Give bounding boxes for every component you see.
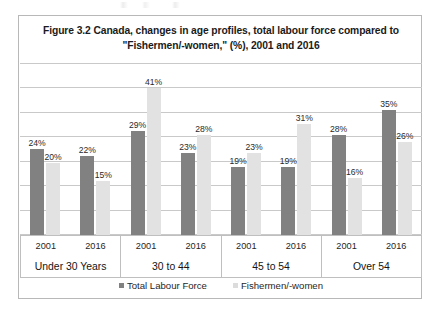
bar-pair-2016: 23%28%	[181, 63, 211, 235]
bar-wrapper: 26%	[398, 63, 412, 235]
bar-value-label: 20%	[45, 152, 62, 162]
axis-age-group-label: 45 to 54	[222, 257, 321, 278]
bar-fishermen-women[interactable]: 26%	[398, 142, 412, 235]
bar-value-label: 15%	[95, 170, 112, 180]
bar-value-label: 41%	[145, 77, 162, 87]
bar-value-label: 23%	[246, 142, 263, 152]
axis-year-row: 20012016	[21, 236, 120, 257]
bar-pair-2001: 24%20%	[30, 63, 60, 235]
scan-noise-artifact	[120, 2, 230, 8]
bar-total-labour-force[interactable]: 19%	[281, 167, 295, 235]
bar-pair-2001: 19%23%	[231, 63, 261, 235]
bar-wrapper: 19%	[281, 63, 295, 235]
bar-fishermen-women[interactable]: 23%	[247, 153, 261, 235]
axis-age-group-label: 30 to 44	[121, 257, 220, 278]
axis-group-column: 2001201630 to 44	[121, 236, 221, 277]
bar-group: 24%20%22%15%	[20, 63, 121, 235]
bar-total-labour-force[interactable]: 19%	[231, 167, 245, 235]
axis-year-row: 20012016	[322, 236, 421, 257]
axis-year-label: 2001	[222, 241, 272, 251]
axis-group-column: 2001201645 to 54	[222, 236, 322, 277]
bar-value-label: 28%	[330, 124, 347, 134]
bar-wrapper: 24%	[30, 63, 44, 235]
bar-value-label: 19%	[230, 156, 247, 166]
bar-wrapper: 15%	[96, 63, 110, 235]
legend-label: Total Labour Force	[127, 280, 207, 291]
figure-frame: Figure 3.2 Canada, changes in age profil…	[18, 15, 422, 299]
bar-groups-container: 24%20%22%15%29%41%23%28%19%23%19%31%28%1…	[20, 63, 422, 235]
bar-total-labour-force[interactable]: 35%	[382, 110, 396, 235]
bar-fishermen-women[interactable]: 20%	[46, 163, 60, 235]
axis-year-label: 2016	[171, 241, 221, 251]
bar-fishermen-women[interactable]: 41%	[147, 88, 161, 235]
bar-fishermen-women[interactable]: 28%	[197, 135, 211, 235]
bar-wrapper: 23%	[247, 63, 261, 235]
bar-wrapper: 22%	[80, 63, 94, 235]
bar-wrapper: 41%	[147, 63, 161, 235]
bar-value-label: 23%	[179, 142, 196, 152]
axis-group-column: 20012016Over 54	[322, 236, 422, 277]
bar-total-labour-force[interactable]: 24%	[30, 149, 44, 235]
bar-wrapper: 29%	[131, 63, 145, 235]
x-axis-table: 20012016Under 30 Years2001201630 to 4420…	[20, 235, 422, 278]
bar-wrapper: 28%	[197, 63, 211, 235]
bar-pair-2016: 35%26%	[382, 63, 412, 235]
legend-swatch-icon	[119, 283, 124, 288]
bar-value-label: 16%	[346, 167, 363, 177]
bar-pair-2016: 22%15%	[80, 63, 110, 235]
bar-pair-2016: 19%31%	[281, 63, 311, 235]
bar-group: 28%16%35%26%	[322, 63, 423, 235]
axis-year-label: 2016	[371, 241, 421, 251]
axis-age-group-label: Over 54	[322, 257, 421, 278]
bar-pair-2001: 28%16%	[332, 63, 362, 235]
legend-item[interactable]: Fishermen/-women	[233, 280, 323, 291]
bar-value-label: 31%	[296, 113, 313, 123]
bar-value-label: 24%	[29, 138, 46, 148]
bar-group: 19%23%19%31%	[221, 63, 322, 235]
bar-value-label: 22%	[79, 145, 96, 155]
chart-title-line-2: "Fishermen/-women," (%), 2001 and 2016	[29, 38, 413, 53]
plot-area: 24%20%22%15%29%41%23%28%19%23%19%31%28%1…	[20, 63, 422, 235]
bar-fishermen-women[interactable]: 31%	[297, 124, 311, 235]
chart-legend: Total Labour ForceFishermen/-women	[19, 280, 423, 291]
bar-wrapper: 23%	[181, 63, 195, 235]
bar-value-label: 35%	[380, 99, 397, 109]
axis-age-group-label: Under 30 Years	[21, 257, 120, 278]
bar-group: 29%41%23%28%	[121, 63, 222, 235]
axis-year-row: 20012016	[121, 236, 220, 257]
bar-total-labour-force[interactable]: 23%	[181, 153, 195, 235]
bar-total-labour-force[interactable]: 22%	[80, 156, 94, 235]
bar-total-labour-force[interactable]: 29%	[131, 131, 145, 235]
axis-year-label: 2016	[271, 241, 321, 251]
bar-value-label: 19%	[280, 156, 297, 166]
bar-wrapper: 31%	[297, 63, 311, 235]
axis-year-label: 2016	[71, 241, 121, 251]
axis-year-row: 20012016	[222, 236, 321, 257]
bar-wrapper: 28%	[332, 63, 346, 235]
chart-title: Figure 3.2 Canada, changes in age profil…	[29, 23, 413, 53]
axis-year-label: 2001	[322, 241, 372, 251]
bar-wrapper: 16%	[348, 63, 362, 235]
bar-value-label: 29%	[129, 120, 146, 130]
bar-wrapper: 20%	[46, 63, 60, 235]
bar-wrapper: 35%	[382, 63, 396, 235]
bar-value-label: 28%	[195, 124, 212, 134]
bar-wrapper: 19%	[231, 63, 245, 235]
legend-label: Fishermen/-women	[241, 280, 323, 291]
axis-year-label: 2001	[121, 241, 171, 251]
bar-pair-2001: 29%41%	[131, 63, 161, 235]
axis-group-column: 20012016Under 30 Years	[21, 236, 121, 277]
bar-fishermen-women[interactable]: 15%	[96, 181, 110, 235]
axis-year-label: 2001	[21, 241, 71, 251]
legend-swatch-icon	[233, 283, 238, 288]
bar-fishermen-women[interactable]: 16%	[348, 178, 362, 235]
bar-total-labour-force[interactable]: 28%	[332, 135, 346, 235]
legend-item[interactable]: Total Labour Force	[119, 280, 207, 291]
bar-value-label: 26%	[396, 131, 413, 141]
chart-title-line-1: Figure 3.2 Canada, changes in age profil…	[29, 23, 413, 38]
